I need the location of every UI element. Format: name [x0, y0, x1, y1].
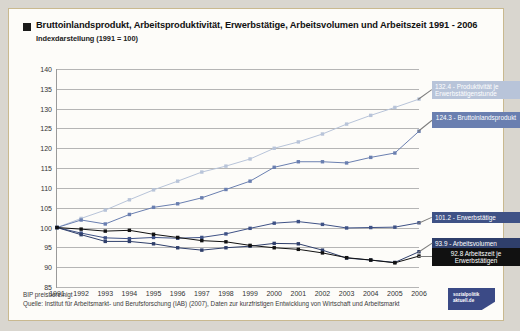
- chart-card: Bruttoinlandsprodukt, Arbeitsproduktivit…: [8, 8, 504, 321]
- series-marker: [273, 242, 276, 245]
- series-value-label: 93.9 - Arbeitsvolumen: [432, 238, 520, 249]
- logo-line-2: aktuell.de: [453, 298, 495, 304]
- plot-area: 859095100105110115120125130135140 199119…: [56, 69, 419, 288]
- series-marker: [321, 160, 324, 163]
- series-marker: [393, 261, 396, 264]
- y-axis-tick-label: 115: [41, 165, 52, 172]
- series-lines: [57, 69, 419, 287]
- series-marker: [321, 132, 324, 135]
- series-marker: [369, 156, 372, 159]
- series-marker: [224, 240, 227, 243]
- y-axis-tick-label: 95: [44, 244, 52, 251]
- series-marker: [369, 258, 372, 261]
- chart-subtitle: Indexdarstellung (1991 = 100): [36, 34, 138, 43]
- series-marker: [176, 236, 179, 239]
- series-marker: [224, 188, 227, 191]
- series-value-label: 101.2 - Erwerbstätige: [432, 212, 520, 223]
- y-axis-tick-label: 110: [41, 184, 52, 191]
- series-line: [57, 99, 419, 227]
- series-marker: [393, 106, 396, 109]
- series-marker: [79, 233, 82, 236]
- label-leader-line: [418, 243, 433, 253]
- series-marker: [297, 248, 300, 251]
- sozialpolitik-logo: sozialpolitik aktuell.de: [448, 288, 495, 310]
- series-marker: [128, 213, 131, 216]
- title-bullet-icon: [23, 23, 31, 31]
- series-marker: [297, 242, 300, 245]
- series-line: [57, 228, 419, 263]
- series-marker: [152, 233, 155, 236]
- series-marker: [152, 242, 155, 245]
- label-leader-line: [418, 256, 432, 257]
- label-leader-line: [418, 217, 432, 224]
- series-marker: [224, 246, 227, 249]
- series-marker: [345, 122, 348, 125]
- gridline: [57, 287, 419, 288]
- series-marker: [79, 218, 82, 221]
- series-marker: [79, 227, 82, 230]
- series-marker: [297, 220, 300, 223]
- y-axis-tick-label: 120: [40, 145, 52, 152]
- series-marker: [104, 222, 107, 225]
- series-marker: [224, 232, 227, 235]
- series-line: [57, 131, 419, 227]
- series-marker: [104, 229, 107, 232]
- series-marker: [369, 114, 372, 117]
- series-marker: [248, 179, 251, 182]
- series-line: [57, 228, 419, 263]
- series-marker: [200, 239, 203, 242]
- series-marker: [345, 161, 348, 164]
- series-marker: [104, 236, 107, 239]
- label-leader-line: [418, 120, 433, 132]
- y-axis-tick-label: 140: [40, 66, 52, 73]
- series-marker: [345, 226, 348, 229]
- series-marker: [152, 236, 155, 239]
- series-marker: [273, 147, 276, 150]
- series-marker: [176, 202, 179, 205]
- series-line: [57, 222, 419, 239]
- series-marker: [104, 240, 107, 243]
- series-marker: [393, 225, 396, 228]
- series-marker: [297, 160, 300, 163]
- series-marker: [248, 157, 251, 160]
- series-marker: [104, 208, 107, 211]
- series-marker: [297, 140, 300, 143]
- series-value-label: 132.4 - Produktivität je Erwerbstätigens…: [432, 81, 520, 99]
- series-value-label: 92.8 Arbeitszeit je Erwerbstätigen: [432, 248, 520, 266]
- y-axis-tick-label: 135: [40, 85, 52, 92]
- footer-notes: BIP preisbereinigt Quelle: Institut für …: [23, 291, 443, 308]
- label-leader-line: [418, 89, 433, 100]
- series-marker: [128, 198, 131, 201]
- y-axis-tick-label: 130: [40, 105, 52, 112]
- y-axis-tick-label: 125: [40, 125, 52, 132]
- series-marker: [321, 251, 324, 254]
- series-marker: [321, 223, 324, 226]
- chart-title-row: Bruttoinlandsprodukt, Arbeitsproduktivit…: [23, 20, 493, 31]
- series-marker: [55, 226, 58, 229]
- footnote-bip: BIP preisbereinigt: [23, 291, 443, 299]
- series-marker: [369, 226, 372, 229]
- series-marker: [273, 246, 276, 249]
- series-marker: [128, 229, 131, 232]
- y-axis-tick-label: 90: [44, 264, 52, 271]
- series-marker: [176, 179, 179, 182]
- series-marker: [273, 221, 276, 224]
- series-marker: [152, 188, 155, 191]
- series-marker: [200, 236, 203, 239]
- series-marker: [393, 151, 396, 154]
- series-marker: [345, 256, 348, 259]
- series-marker: [248, 227, 251, 230]
- series-marker: [248, 244, 251, 247]
- y-axis-tick-label: 105: [40, 204, 52, 211]
- series-value-label: 124.3 - Bruttoinlandsprodukt: [432, 112, 520, 128]
- footnote-source: Quelle: Institut für Arbeitsmarkt- und B…: [23, 300, 443, 308]
- series-marker: [200, 170, 203, 173]
- series-marker: [224, 164, 227, 167]
- series-marker: [176, 246, 179, 249]
- series-marker: [200, 196, 203, 199]
- series-marker: [152, 206, 155, 209]
- series-marker: [273, 166, 276, 169]
- series-marker: [128, 240, 131, 243]
- y-axis-tick-label: 100: [40, 224, 52, 231]
- page-title: Bruttoinlandsprodukt, Arbeitsproduktivit…: [36, 20, 477, 31]
